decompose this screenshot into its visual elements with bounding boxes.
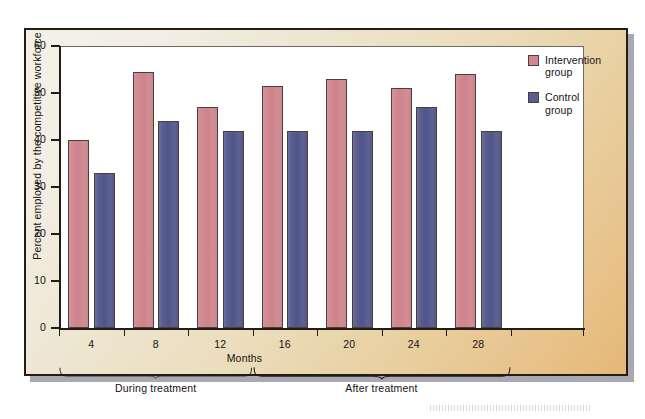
y-tick-mark [51, 92, 60, 93]
brace-during-treatment: During treatment [59, 366, 253, 380]
x-tick-label: 12 [214, 338, 226, 350]
x-tick-mark [124, 329, 125, 336]
x-tick-label: 4 [88, 338, 94, 350]
x-axis-line [59, 328, 585, 330]
bar-control-month-20 [352, 131, 373, 328]
bar-control-month-28 [481, 131, 502, 328]
y-tick-label: 10 [0, 274, 46, 286]
y-tick-mark [51, 139, 60, 140]
brace-after-treatment-shape [253, 366, 511, 380]
legend-label-intervention-line2: group [545, 66, 572, 78]
bar-intervention-month-4 [68, 140, 89, 328]
bar-intervention-month-8 [133, 72, 154, 328]
x-tick-label: 8 [153, 338, 159, 350]
x-tick-mark [317, 329, 318, 336]
y-tick-mark [51, 280, 60, 281]
bar-intervention-month-20 [326, 79, 347, 328]
legend-label-intervention-line1: Intervention [545, 54, 601, 66]
brace-during-treatment-label: During treatment [59, 382, 253, 394]
legend-entry-intervention: Intervention group [528, 54, 628, 78]
y-tick-label: 0 [0, 321, 46, 333]
brace-during-treatment-shape [59, 366, 253, 380]
x-tick-mark [583, 329, 584, 336]
bar-control-month-16 [287, 131, 308, 328]
y-tick-mark [51, 233, 60, 234]
legend-label-intervention: Intervention group [545, 54, 601, 78]
y-tick-mark [51, 186, 60, 187]
scan-artifact [430, 405, 590, 411]
legend-swatch-intervention [528, 55, 539, 66]
x-tick-label: 24 [408, 338, 420, 350]
legend-entry-control: Control group [528, 91, 628, 115]
x-tick-mark [188, 329, 189, 336]
brace-after-treatment: After treatment [253, 366, 511, 380]
brace-after-treatment-label: After treatment [253, 382, 511, 394]
x-tick-mark [446, 329, 447, 336]
x-axis-title-text: Months [227, 352, 263, 364]
legend-label-control-line2: group [545, 104, 572, 116]
x-tick-mark [253, 329, 254, 336]
x-tick-label: 16 [279, 338, 291, 350]
bar-intervention-month-12 [197, 107, 218, 328]
legend-label-control: Control group [545, 91, 580, 115]
x-tick-mark [59, 329, 60, 336]
figure-root: 0102030405060 481216202428 Percent emplo… [0, 0, 645, 419]
bar-intervention-month-28 [455, 74, 476, 328]
x-tick-mark [511, 329, 512, 336]
x-axis-title: Months [0, 352, 645, 364]
bar-control-month-8 [158, 121, 179, 328]
x-tick-mark [382, 329, 383, 336]
bar-intervention-month-16 [262, 86, 283, 328]
legend-label-control-line1: Control [545, 91, 580, 103]
x-tick-label: 28 [472, 338, 484, 350]
chart-legend: Intervention group Control group [528, 54, 628, 129]
legend-swatch-control [528, 92, 539, 103]
y-axis-title: Percent employed by the competitive work… [31, 21, 43, 271]
bar-control-month-12 [223, 131, 244, 328]
y-tick-mark [51, 45, 60, 46]
bar-control-month-4 [94, 173, 115, 328]
x-tick-label: 20 [343, 338, 355, 350]
bar-intervention-month-24 [391, 88, 412, 328]
bar-control-month-24 [416, 107, 437, 328]
